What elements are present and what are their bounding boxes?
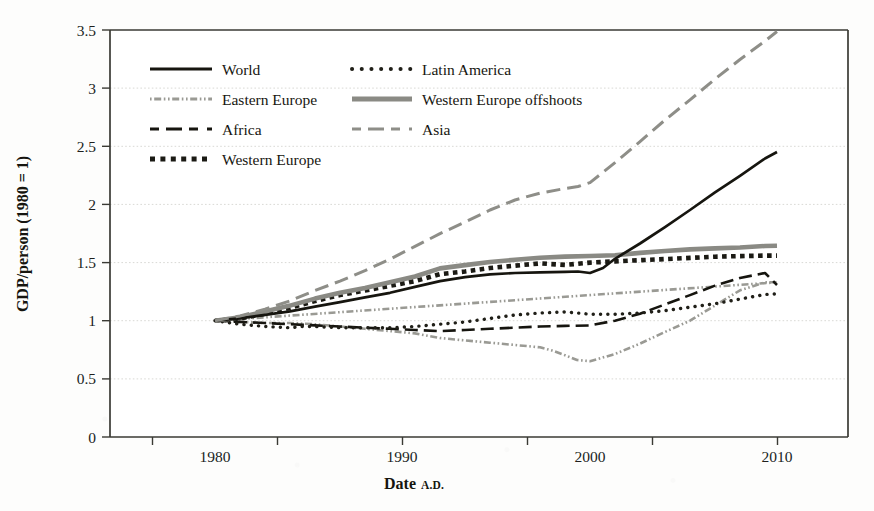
legend-label-asia: Asia bbox=[422, 121, 451, 138]
y-axis-title: GDP/person (1980 = 1) bbox=[14, 156, 32, 312]
y-tick-label-0.5: 0.5 bbox=[77, 370, 97, 387]
y-tick-label-0: 0 bbox=[88, 429, 96, 446]
y-tick-label-1: 1 bbox=[88, 312, 96, 329]
legend-label-western-europe: Western Europe bbox=[222, 151, 321, 168]
x-axis-ticks bbox=[153, 437, 778, 445]
x-tick-label-1980: 1980 bbox=[200, 448, 231, 465]
gdp-per-person-line-chart: 3.5 3 2.5 2 1.5 1 0.5 0 GDP/person (1980… bbox=[0, 0, 874, 511]
x-axis-title: Date A.D. bbox=[384, 475, 444, 492]
chart-figure: 3.5 3 2.5 2 1.5 1 0.5 0 GDP/person (1980… bbox=[0, 0, 874, 511]
x-axis-title-main: Date bbox=[384, 475, 416, 492]
legend-label-latin-america: Latin America bbox=[422, 61, 511, 78]
y-axis-ticks bbox=[102, 30, 110, 437]
x-axis-title-suffix: A.D. bbox=[421, 479, 444, 491]
legend-label-eastern-europe: Eastern Europe bbox=[222, 91, 317, 108]
legend-label-africa: Africa bbox=[222, 121, 262, 138]
x-tick-label-2000: 2000 bbox=[575, 448, 606, 465]
y-tick-label-1.5: 1.5 bbox=[77, 254, 97, 271]
x-axis-tick-labels: 1980 1990 2000 2010 bbox=[200, 448, 793, 465]
y-tick-label-3.5: 3.5 bbox=[77, 22, 97, 39]
legend-label-world: World bbox=[222, 61, 261, 78]
x-tick-label-1990: 1990 bbox=[387, 448, 418, 465]
x-tick-label-2010: 2010 bbox=[762, 448, 793, 465]
y-tick-label-3: 3 bbox=[88, 80, 96, 97]
legend-label-western-europe-offshoots: Western Europe offshoots bbox=[422, 91, 582, 108]
y-axis-tick-labels: 3.5 3 2.5 2 1.5 1 0.5 0 bbox=[77, 22, 97, 446]
y-tick-label-2.5: 2.5 bbox=[77, 138, 97, 155]
y-tick-label-2: 2 bbox=[88, 196, 96, 213]
